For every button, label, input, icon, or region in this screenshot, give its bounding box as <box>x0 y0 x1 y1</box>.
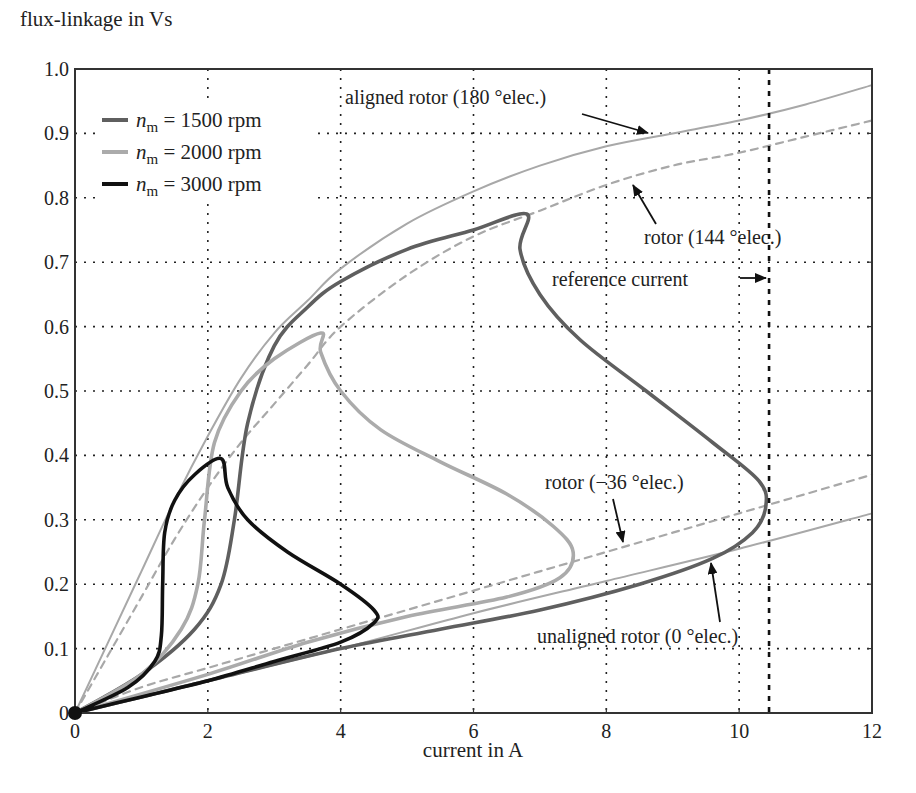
y-tick-label: 0.2 <box>44 573 69 595</box>
series-n-m-2000-rpm <box>75 333 573 713</box>
arrow-icon <box>633 185 656 224</box>
y-tick-label: 0.6 <box>44 316 69 338</box>
y-tick-label: 0.4 <box>44 444 69 466</box>
y-tick-label: 0.9 <box>44 122 69 144</box>
x-tick-label: 12 <box>862 720 882 742</box>
y-tick-label: 0.8 <box>44 187 69 209</box>
annotation-aligned-rotor: aligned rotor (180 °elec.) <box>345 86 648 133</box>
series-n-m-3000-rpm <box>75 458 378 713</box>
annotation-m36-label: rotor (−36 °elec.) <box>545 471 684 494</box>
annotation-unaligned-label: unaligned rotor (0 °elec.) <box>537 625 738 648</box>
arrow-icon <box>711 563 720 622</box>
y-tick-label: 1.0 <box>44 58 69 80</box>
y-tick-label: 0.1 <box>44 638 69 660</box>
legend: nm = 1500 rpmnm = 2000 rpmnm = 3000 rpm <box>100 100 315 200</box>
x-axis-title: current in A <box>423 738 524 762</box>
annotation-rotor-144: rotor (144 °elec.) <box>633 185 781 249</box>
arrow-icon <box>582 114 648 133</box>
x-tick-label: 8 <box>601 720 611 742</box>
flux-linkage-chart: 024681012 00.10.20.30.40.50.60.70.80.91.… <box>0 0 916 793</box>
x-tick-label: 2 <box>203 720 213 742</box>
annotation-rotor-minus36: rotor (−36 °elec.) <box>545 471 684 542</box>
x-tick-label: 4 <box>336 720 346 742</box>
y-tick-label: 0.5 <box>44 380 69 402</box>
annotation-ref-label: reference current <box>552 268 688 290</box>
y-tick-label: 0 <box>59 702 69 724</box>
y-axis-title: flux-linkage in Vs <box>20 7 172 31</box>
y-tick-label: 0.7 <box>44 251 69 273</box>
annotation-reference-current: reference current <box>552 268 766 290</box>
arrow-icon <box>613 499 623 542</box>
annotation-unaligned-rotor: unaligned rotor (0 °elec.) <box>537 563 738 648</box>
y-tick-label: 0.3 <box>44 509 69 531</box>
x-tick-label: 10 <box>729 720 749 742</box>
annotation-144-label: rotor (144 °elec.) <box>644 226 781 249</box>
x-tick-label: 0 <box>70 720 80 742</box>
annotation-aligned-label: aligned rotor (180 °elec.) <box>345 86 546 109</box>
origin-marker <box>68 706 82 720</box>
